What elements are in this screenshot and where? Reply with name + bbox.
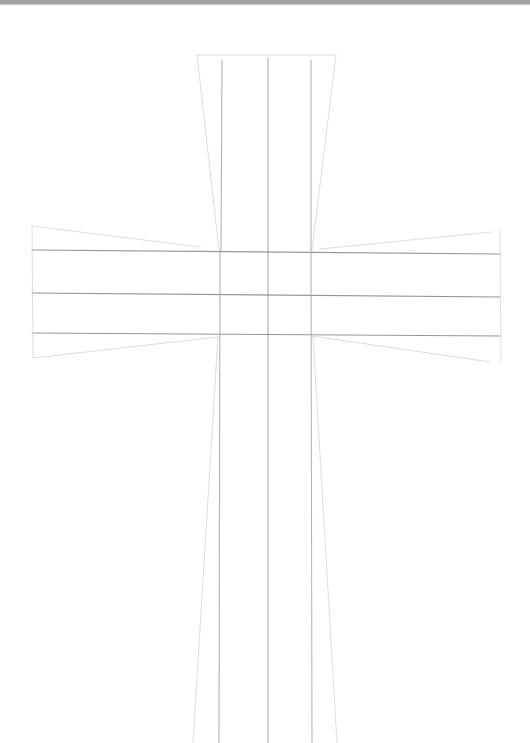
stem-outline-bottom-right-line xyxy=(313,336,337,743)
stem-guide-left-upper-line xyxy=(221,60,222,250)
right-arm-end-line xyxy=(500,230,501,362)
stem-outline-top-right-line xyxy=(312,55,336,250)
stem-outline-top-left-line xyxy=(197,55,219,250)
stem-guide-left-lower-line xyxy=(219,250,220,743)
stem-outline-bottom-left-line xyxy=(193,336,218,743)
right-arm-outline-bottom-line xyxy=(312,336,490,362)
stem-guide-right-lower-line xyxy=(311,250,312,743)
arm-guide-bottom-line xyxy=(32,333,500,336)
left-arm-outline-bottom-line xyxy=(33,337,218,358)
arm-guide-middle-line xyxy=(32,293,500,297)
cross-sketch xyxy=(0,0,530,743)
sketch-canvas xyxy=(0,0,530,743)
left-arm-end-line xyxy=(32,226,33,358)
right-arm-outline-top-line xyxy=(320,232,492,249)
left-arm-outline-top-line xyxy=(32,226,200,247)
arm-guide-top-line xyxy=(32,250,500,254)
